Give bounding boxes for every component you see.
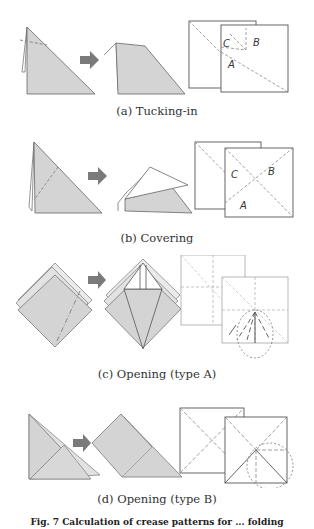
tucking-in-diagram: C B A bbox=[0, 0, 314, 105]
back-flap bbox=[22, 27, 27, 72]
figure-caption: Fig. 7 Calculation of crease patterns fo… bbox=[0, 517, 314, 529]
arrow-icon bbox=[80, 51, 99, 69]
opening-type-a-diagram bbox=[0, 255, 314, 375]
panel-c-opening-type-a: (c) Opening (type A) bbox=[0, 255, 314, 395]
panel-b-covering: C B A (b) Covering bbox=[0, 135, 314, 260]
panel-caption: (d) Opening (type B) bbox=[0, 492, 314, 506]
label-c: C bbox=[223, 38, 230, 49]
panel-caption: (c) Opening (type A) bbox=[0, 367, 314, 381]
label-c: C bbox=[231, 169, 238, 180]
arrow-icon bbox=[88, 167, 107, 185]
covering-diagram: C B A bbox=[0, 135, 314, 235]
panel-caption: (a) Tucking-in bbox=[0, 104, 314, 118]
label-a: A bbox=[227, 59, 235, 70]
panel-caption: (b) Covering bbox=[0, 231, 314, 245]
opening-type-b-diagram bbox=[0, 403, 314, 488]
label-a: A bbox=[239, 200, 247, 211]
arrow-icon bbox=[88, 271, 106, 289]
label-b: B bbox=[268, 166, 275, 177]
panel-a-tucking-in: C B A (a) Tucking-in bbox=[0, 0, 314, 125]
panel-d-opening-type-b: (d) Opening (type B) bbox=[0, 403, 314, 513]
label-b: B bbox=[253, 37, 260, 48]
arrow-icon bbox=[73, 434, 91, 452]
